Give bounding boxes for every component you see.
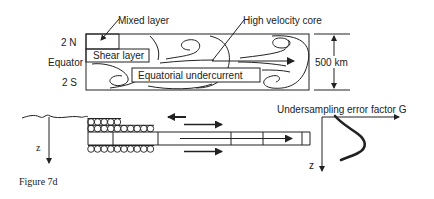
g-axis-label: Undersampling error factor G [277, 104, 407, 115]
lat-north-label: 2 N [61, 37, 77, 48]
ocean-diagram: Mixed layer Shear layer 2 N Equator 2 S [0, 0, 434, 199]
undercurrent-label: Equatorial undercurrent [138, 70, 243, 81]
top-panel: Mixed layer Shear layer 2 N Equator 2 S [48, 15, 350, 90]
sea-surface [22, 115, 88, 118]
mixed-layer-label: Mixed layer [118, 15, 170, 26]
sampling-grid [88, 118, 310, 145]
depth-axis-left-label: z [36, 142, 41, 153]
equator-label: Equator [48, 57, 84, 68]
shear-layer-label: Shear layer [93, 50, 145, 61]
lat-south-label: 2 S [62, 77, 77, 88]
figure-caption: Figure 7d [19, 176, 58, 187]
particle-circles [88, 119, 154, 153]
depth-axis-right-label: z [309, 160, 314, 171]
mixed-layer-box [86, 34, 119, 49]
mixed-layer-pointer [101, 19, 119, 40]
core-pointer [212, 20, 244, 61]
g-profile-curve [335, 116, 365, 160]
scale-label: 500 km [315, 57, 348, 68]
bottom-panel: z Undersampling error fa [19, 104, 407, 187]
high-velocity-core-label: High velocity core [243, 15, 322, 26]
